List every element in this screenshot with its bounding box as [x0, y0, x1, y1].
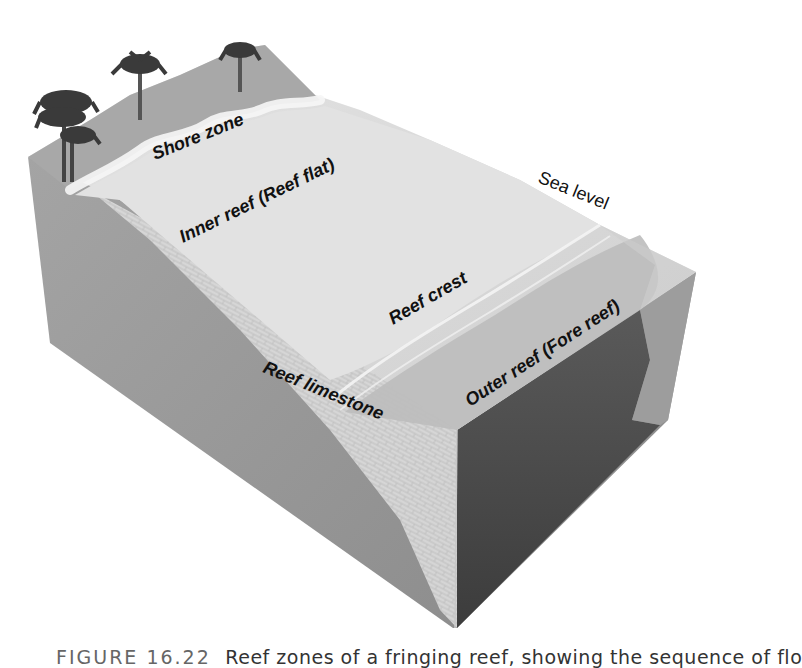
caption-text: Reef zones of a fringing reef, showing t…: [225, 646, 802, 668]
figure-caption: FIGURE 16.22 Reef zones of a fringing re…: [56, 646, 756, 668]
figure-number: FIGURE 16.22: [56, 646, 211, 668]
